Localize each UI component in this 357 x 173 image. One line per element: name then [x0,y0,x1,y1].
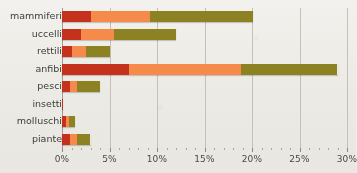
x-tick-minor [224,148,225,150]
x-tick-minor [167,148,168,150]
x-tick-minor [148,148,149,150]
bar-row: piante [0,131,356,149]
x-tick-label-10pct: 10% [147,154,168,164]
stacked-bar-insetti[interactable] [62,99,63,110]
bar-segment-uccelli-serie-3[interactable] [114,29,176,40]
x-tick-major [157,148,158,152]
x-tick-major [110,148,111,152]
stacked-bar-molluschi[interactable] [62,116,75,127]
bar-row: mammiferi [0,8,356,26]
category-label-insetti: insetti [0,98,62,109]
x-tick-minor [309,148,310,150]
bars-group: mammiferiuccellirettilianfibipesciinsett… [0,8,356,148]
bar-row: pesci [0,78,356,96]
x-tick-minor [319,148,320,150]
bar-segment-rettili-serie-1[interactable] [62,46,72,57]
x-tick-minor [290,148,291,150]
bar-segment-anfibi-serie-2[interactable] [129,64,241,75]
bar-segment-anfibi-serie-3[interactable] [241,64,338,75]
bar-segment-pesci-serie-1[interactable] [62,81,70,92]
x-tick-minor [338,148,339,150]
bar-segment-rettili-serie-3[interactable] [86,46,110,57]
stacked-bar-uccelli[interactable] [62,29,176,40]
x-tick-label-25pct: 25% [289,154,310,164]
bar-segment-uccelli-serie-1[interactable] [62,29,81,40]
stacked-bar-mammiferi[interactable] [62,11,253,22]
x-tick-minor [328,148,329,150]
bar-row: uccelli [0,26,356,44]
x-tick-major [205,148,206,152]
x-axis-ticks [62,148,347,153]
stacked-bar-pesci[interactable] [62,81,100,92]
bar-segment-mammiferi-serie-3[interactable] [150,11,253,22]
bar-row: anfibi [0,61,356,79]
x-tick-label-5pct: 5% [102,154,117,164]
bar-row: insetti [0,96,356,114]
x-tick-minor [186,148,187,150]
x-tick-label-20pct: 20% [242,154,263,164]
stacked-bar-rettili[interactable] [62,46,110,57]
x-tick-minor [195,148,196,150]
cropped-header-text [180,0,356,6]
x-tick-minor [243,148,244,150]
category-label-uccelli: uccelli [0,28,62,39]
x-axis-tick-labels: 0%5%10%15%20%25%30% [0,154,356,170]
x-tick-minor [138,148,139,150]
x-tick-minor [271,148,272,150]
x-tick-minor [72,148,73,150]
bar-segment-insetti-serie-1[interactable] [62,99,63,110]
bar-segment-mammiferi-serie-1[interactable] [62,11,91,22]
category-label-mammiferi: mammiferi [0,10,62,21]
bar-segment-rettili-serie-2[interactable] [72,46,86,57]
x-tick-label-0pct: 0% [55,154,70,164]
bar-segment-pesci-serie-3[interactable] [77,81,100,92]
bar-segment-uccelli-serie-2[interactable] [81,29,114,40]
x-tick-label-15pct: 15% [194,154,215,164]
category-label-rettili: rettili [0,45,62,56]
bar-segment-piante-serie-3[interactable] [77,134,90,145]
bar-segment-anfibi-serie-1[interactable] [62,64,129,75]
x-tick-major [347,148,348,152]
x-tick-major [62,148,63,152]
bar-segment-piante-serie-2[interactable] [70,134,78,145]
x-tick-minor [176,148,177,150]
category-label-molluschi: molluschi [0,115,62,126]
x-tick-minor [129,148,130,150]
category-label-pesci: pesci [0,80,62,91]
x-tick-minor [214,148,215,150]
x-tick-minor [233,148,234,150]
x-tick-major [300,148,301,152]
bar-row: molluschi [0,113,356,131]
x-tick-minor [119,148,120,150]
bar-segment-molluschi-serie-3[interactable] [69,116,76,127]
x-tick-minor [81,148,82,150]
x-tick-major [252,148,253,152]
stacked-bar-anfibi[interactable] [62,64,338,75]
category-label-anfibi: anfibi [0,63,62,74]
stacked-bar-piante[interactable] [62,134,91,145]
x-tick-minor [91,148,92,150]
x-tick-minor [100,148,101,150]
category-label-piante: piante [0,133,62,144]
x-tick-minor [281,148,282,150]
bar-segment-pesci-serie-2[interactable] [70,81,78,92]
bar-segment-mammiferi-serie-2[interactable] [91,11,151,22]
bar-segment-piante-serie-1[interactable] [62,134,70,145]
bar-row: rettili [0,43,356,61]
x-tick-minor [262,148,263,150]
x-tick-label-30pct: 30% [337,154,357,164]
